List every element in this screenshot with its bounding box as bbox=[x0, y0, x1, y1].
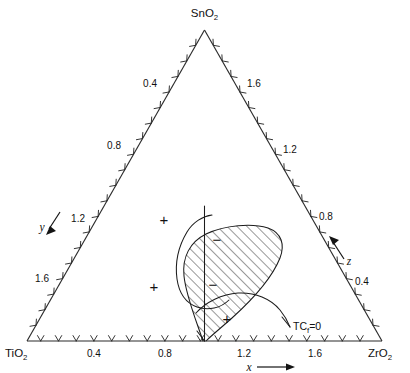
left-tick-label-2: 1.2 bbox=[71, 213, 85, 224]
sign-minus-middle: − bbox=[209, 276, 218, 293]
vertex-label-bottom-right: ZrO2 bbox=[368, 347, 392, 362]
right-tick-label-3: 0.4 bbox=[355, 276, 369, 287]
sign-plus-lower-left: + bbox=[150, 278, 159, 295]
sign-plus-upper-left: + bbox=[160, 211, 169, 228]
bottom-tick-label-3: 1.6 bbox=[308, 348, 322, 359]
sign-minus-upper: − bbox=[213, 231, 222, 248]
bottom-axis-ticks bbox=[38, 336, 364, 341]
right-tick-label-0: 1.6 bbox=[247, 78, 261, 89]
y-axis-arrow-group: y bbox=[38, 212, 60, 235]
vertex-label-top: SnO2 bbox=[191, 7, 218, 22]
left-tick-label-0: 0.4 bbox=[143, 78, 157, 89]
y-axis-arrow-head bbox=[46, 226, 56, 235]
y-axis-arrow-line bbox=[49, 212, 60, 229]
left-axis-ticks bbox=[30, 39, 196, 326]
z-axis-arrow-group: z bbox=[329, 236, 352, 267]
bottom-tick-label-1: 0.8 bbox=[158, 348, 172, 359]
y-axis-label: y bbox=[38, 221, 45, 234]
sign-plus-inside: + bbox=[223, 310, 232, 327]
x-axis-arrow-head bbox=[286, 363, 295, 370]
left-tick-label-1: 0.8 bbox=[107, 140, 121, 151]
contour-label-tcf: TCf=0 bbox=[293, 320, 321, 335]
phase-boundary-group bbox=[170, 206, 300, 347]
left-tick-label-3: 1.6 bbox=[35, 273, 49, 284]
x-axis-arrow-group: x bbox=[245, 361, 295, 373]
vertex-label-bottom-left: TiO2 bbox=[5, 347, 27, 362]
bottom-tick-label-2: 1.2 bbox=[237, 348, 251, 359]
x-axis-label: x bbox=[245, 361, 252, 373]
z-axis-arrow-line bbox=[333, 242, 344, 259]
z-axis-label: z bbox=[346, 255, 352, 267]
bottom-tick-label-0: 0.4 bbox=[87, 348, 101, 359]
z-axis-arrow-head bbox=[329, 236, 339, 245]
right-tick-label-2: 0.8 bbox=[319, 211, 333, 222]
ternary-diagram-root: SnO2 TiO2 ZrO2 0.4 0.8 1.2 1.6 0.4 0.8 1… bbox=[0, 0, 410, 373]
right-tick-label-1: 1.2 bbox=[283, 144, 297, 155]
ternary-phase-diagram: SnO2 TiO2 ZrO2 0.4 0.8 1.2 1.6 0.4 0.8 1… bbox=[0, 0, 410, 373]
hatched-region-fill bbox=[170, 215, 300, 347]
